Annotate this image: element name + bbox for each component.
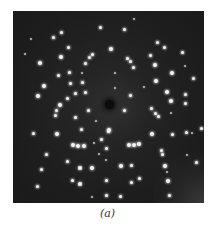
diffraction-spot [71, 143, 75, 147]
diffraction-spot [184, 93, 187, 96]
diffraction-spot [166, 179, 170, 183]
diffraction-spot [76, 144, 80, 148]
diffraction-spot [57, 74, 60, 77]
diffraction-spot [42, 84, 46, 88]
diffraction-spot [166, 171, 168, 173]
beam-stop [105, 100, 114, 109]
diffraction-spot [55, 132, 59, 136]
diffraction-spot [185, 131, 188, 134]
diffraction-spot [163, 46, 166, 49]
diffraction-spot [163, 164, 167, 168]
diffraction-spot [38, 61, 42, 65]
diffraction-spot [80, 128, 83, 131]
diffraction-spot [114, 72, 116, 74]
diffraction-spot [171, 133, 174, 136]
diffraction-spot [107, 128, 111, 132]
diffraction-spot [36, 185, 39, 188]
diffraction-pattern-image [13, 11, 204, 203]
diffraction-spot [67, 46, 70, 49]
diffraction-spot [186, 154, 188, 156]
diffraction-spot [161, 153, 164, 156]
diffraction-spot [88, 56, 91, 59]
diffraction-spot [160, 149, 163, 152]
diffraction-spot [123, 109, 126, 112]
diffraction-spot [59, 55, 63, 59]
diffraction-spot [91, 53, 94, 56]
diffraction-spot [156, 41, 159, 44]
diffraction-spot [30, 38, 32, 40]
diffraction-spot [153, 63, 157, 67]
diffraction-spot [184, 65, 186, 67]
diffraction-spot [123, 28, 126, 31]
diffraction-spot [127, 143, 131, 147]
diffraction-spot [129, 60, 132, 63]
diffraction-spot [100, 138, 103, 141]
diffraction-spot [119, 164, 123, 168]
diffraction-spot [181, 51, 184, 54]
diffraction-spot [58, 103, 62, 107]
diffraction-spot [66, 160, 69, 163]
diffraction-spot [71, 179, 74, 182]
diffraction-spot [81, 81, 84, 84]
diffraction-spot [24, 53, 26, 55]
diffraction-spot [129, 94, 132, 97]
diffraction-spot [169, 99, 173, 103]
diffraction-spot [132, 66, 135, 69]
diffraction-spot [150, 132, 154, 136]
diffraction-spot [93, 142, 95, 144]
diffraction-spot [32, 132, 35, 135]
diffraction-spot [99, 26, 102, 29]
diffraction-spot [200, 127, 203, 130]
diffraction-spot [170, 71, 174, 75]
diffraction-spot [78, 166, 82, 170]
central-halo [83, 71, 153, 141]
diffraction-spot [36, 94, 40, 98]
diffraction-spot [109, 47, 113, 51]
diffraction-spot [78, 182, 82, 186]
diffraction-spot [137, 142, 141, 146]
diffraction-spot [68, 71, 71, 74]
diffraction-spot [60, 31, 63, 34]
diffraction-spot [55, 109, 58, 112]
diffraction-spot [119, 195, 122, 198]
diffraction-spot [81, 72, 83, 74]
diffraction-spot [40, 168, 43, 171]
diffraction-spot [87, 109, 90, 112]
diffraction-spot [74, 116, 77, 119]
diffraction-spot [138, 177, 141, 180]
diffraction-spot [114, 87, 116, 89]
diffraction-spot [66, 97, 69, 100]
diffraction-spot [90, 166, 94, 170]
diffraction-spot [133, 18, 135, 20]
diffraction-spot [154, 112, 157, 115]
diffraction-spot [170, 112, 172, 114]
diffraction-spot [191, 132, 193, 134]
diffraction-spot [157, 115, 160, 118]
diffraction-spot [130, 164, 133, 167]
diffraction-spot [132, 143, 136, 147]
diffraction-spot [105, 147, 108, 150]
diffraction-spot [165, 90, 169, 94]
diffraction-spot [195, 161, 198, 164]
diffraction-spot [168, 194, 171, 197]
diffraction-spot [52, 36, 55, 39]
diffraction-spot [130, 181, 133, 184]
figure-caption: (a) [0, 207, 215, 220]
diffraction-spot [82, 144, 86, 148]
diffraction-spot [105, 194, 108, 197]
diffraction-spot [54, 114, 57, 117]
diffraction-spot [74, 92, 77, 95]
diffraction-spot [84, 91, 87, 94]
diffraction-spot [150, 107, 153, 110]
diffraction-spot [126, 57, 129, 60]
diffraction-spot [184, 102, 187, 105]
diffraction-spot [95, 120, 97, 122]
diffraction-spot [98, 153, 100, 155]
diffraction-spot [105, 159, 107, 161]
diffraction-spot [143, 86, 145, 88]
diffraction-spot [154, 79, 158, 83]
diffraction-spot [45, 153, 48, 156]
diffraction-spot [84, 62, 87, 65]
diffraction-spot [192, 77, 195, 80]
diffraction-spot [149, 54, 152, 57]
